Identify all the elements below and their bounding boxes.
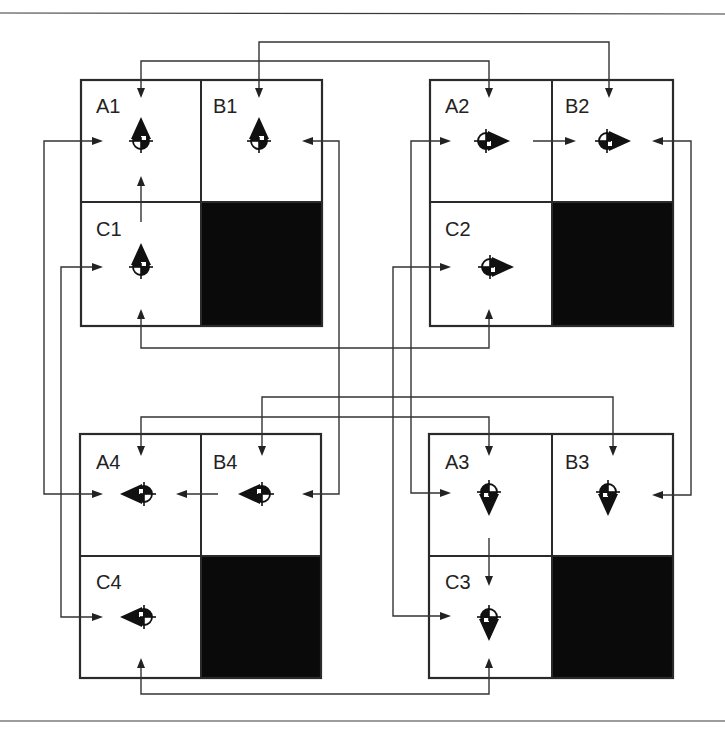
grid-world-diagram: A1 B1 C1 A2 B2 C2 A4 B4 C4 A3 — [0, 0, 725, 735]
arrow-right-icon — [440, 612, 451, 620]
cell-label-B4: B4 — [213, 451, 237, 473]
cell-label-A1: A1 — [96, 95, 120, 117]
arrow-down-icon — [137, 88, 145, 98]
block-2: A2 B2 C2 — [430, 80, 673, 326]
arrow-up-icon — [137, 176, 145, 186]
cell-label-A2: A2 — [445, 95, 469, 117]
arrow-down-icon — [485, 576, 493, 586]
agent-right-icon — [478, 255, 514, 279]
arrow-right-icon — [92, 263, 103, 271]
agent-left-icon — [120, 482, 156, 506]
arrow-down-icon — [485, 88, 493, 98]
arrow-down-icon — [258, 446, 266, 456]
arrow-up-icon — [485, 658, 493, 668]
agent-left-icon — [238, 482, 274, 506]
block-3: A3 B3 C3 — [429, 434, 673, 678]
block-1: A1 B1 C1 — [81, 80, 322, 326]
arrow-right-icon — [440, 263, 451, 271]
arrow-down-icon — [609, 446, 617, 456]
arrow-down-icon — [255, 88, 263, 98]
arrow-left-icon — [302, 137, 313, 145]
agent-right-icon — [474, 129, 510, 153]
top-rule — [0, 13, 725, 14]
agent-up-icon — [247, 117, 271, 153]
agent-right-icon — [595, 129, 631, 153]
arrow-left-icon — [302, 490, 313, 498]
arrow-left-icon — [652, 491, 663, 499]
cell-label-A3: A3 — [445, 451, 469, 473]
cell-label-B2: B2 — [565, 95, 589, 117]
agent-up-icon — [129, 117, 153, 153]
agent-left-icon — [120, 605, 156, 629]
arrow-down-icon — [485, 446, 493, 456]
arrow-left-icon — [176, 490, 187, 498]
cell-label-B1: B1 — [213, 95, 237, 117]
agent-down-icon — [477, 605, 501, 641]
blocked-cell-4 — [201, 556, 321, 678]
agent-up-icon — [129, 243, 153, 279]
cell-label-C1: C1 — [96, 218, 122, 240]
arrow-right-icon — [440, 489, 451, 497]
block-4: A4 B4 C4 — [80, 434, 321, 678]
arrow-right-icon — [92, 137, 103, 145]
cell-label-C2: C2 — [445, 218, 471, 240]
arrow-down-icon — [605, 88, 613, 98]
arrow-down-icon — [137, 446, 145, 456]
cell-label-C4: C4 — [96, 571, 122, 593]
agent-down-icon — [477, 480, 501, 516]
blocked-cell-3 — [552, 556, 673, 678]
arrow-up-icon — [485, 309, 493, 319]
arrow-up-icon — [137, 658, 145, 668]
agent-down-icon — [596, 480, 620, 516]
cell-label-C3: C3 — [445, 571, 471, 593]
arrow-up-icon — [137, 309, 145, 319]
arrow-right-icon — [565, 137, 576, 145]
blocked-cell-1 — [201, 202, 322, 326]
arrow-right-icon — [92, 490, 103, 498]
cell-label-B3: B3 — [565, 451, 589, 473]
cell-label-A4: A4 — [96, 451, 120, 473]
blocked-cell-2 — [552, 202, 673, 326]
arrow-left-icon — [652, 137, 663, 145]
arrow-right-icon — [92, 613, 103, 621]
arrow-right-icon — [440, 137, 451, 145]
